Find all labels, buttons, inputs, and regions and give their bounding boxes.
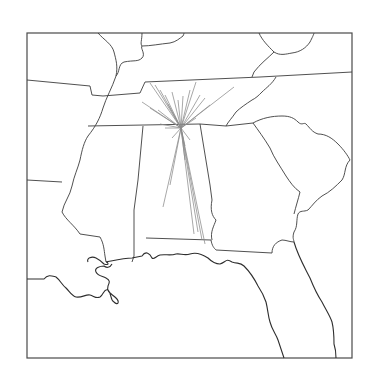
map-figure: [0, 0, 371, 382]
map-canvas: [0, 0, 371, 382]
